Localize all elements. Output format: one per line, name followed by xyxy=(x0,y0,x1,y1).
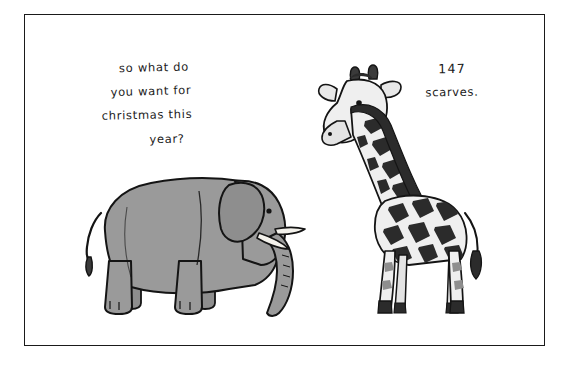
giraffe-svg xyxy=(289,51,489,327)
elephant-speech-line-2: you want for xyxy=(91,78,212,105)
giraffe-leg-front-far xyxy=(395,255,407,309)
giraffe-hoof-front-near xyxy=(378,301,392,313)
giraffe-hoof-front-far xyxy=(394,303,406,313)
giraffe-tail-tuft xyxy=(471,251,482,279)
giraffe-illustration xyxy=(289,51,489,331)
elephant-illustration xyxy=(79,161,309,325)
elephant-leg-front-near xyxy=(175,261,202,314)
elephant-speech-line-3: christmas this xyxy=(87,103,207,129)
elephant-tail-tuft xyxy=(86,257,92,276)
cartoon-page: so what do you want for christmas this y… xyxy=(0,0,577,367)
giraffe-nostril xyxy=(328,132,332,136)
elephant-group xyxy=(86,178,305,316)
giraffe-hoof-hind-near xyxy=(450,301,464,313)
elephant-eye xyxy=(266,208,271,213)
elephant-speech-text: so what do you want for christmas this y… xyxy=(89,58,209,152)
panel-border: so what do you want for christmas this y… xyxy=(24,14,545,346)
giraffe-leg-front-near xyxy=(379,251,395,309)
giraffe-group xyxy=(319,65,482,313)
elephant-svg xyxy=(79,161,309,321)
elephant-speech-line-1: so what do xyxy=(94,55,215,81)
giraffe-ear-left xyxy=(319,85,337,102)
elephant-speech-line-4: year? xyxy=(107,127,227,152)
